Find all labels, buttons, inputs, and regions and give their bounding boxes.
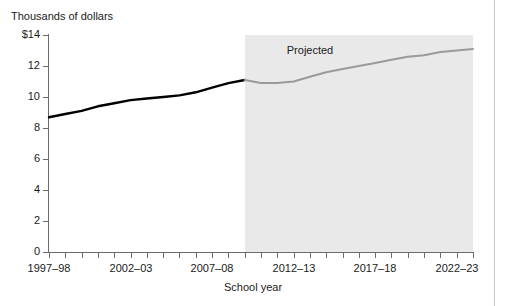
series-line-actual bbox=[49, 80, 245, 117]
series-lines bbox=[0, 0, 506, 306]
chart-figure: Thousands of dollars 024681012$14 1997–9… bbox=[0, 0, 506, 306]
x-axis-caption: School year bbox=[0, 281, 506, 293]
series-line-projected bbox=[245, 49, 473, 83]
